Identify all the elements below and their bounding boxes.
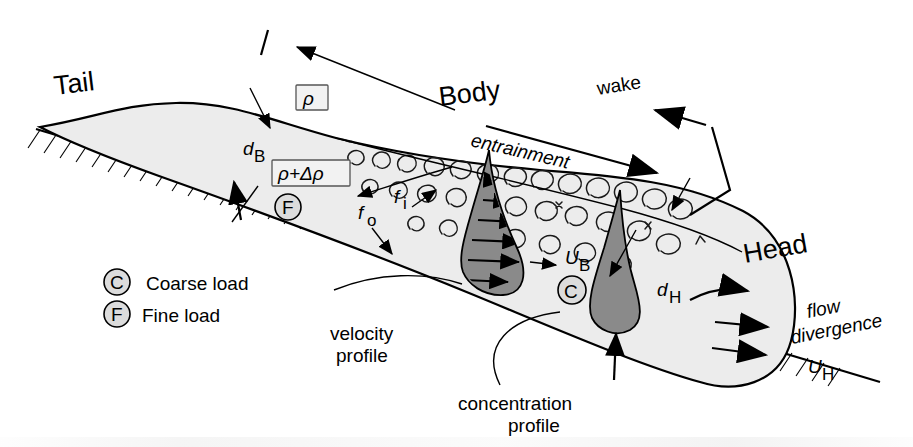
legend-item-fine: F Fine load — [104, 301, 220, 327]
wake-label: wake — [594, 71, 642, 99]
velocity-body-subscript: B — [579, 256, 590, 275]
legend-fine-label: Fine load — [142, 305, 220, 326]
depth-head-subscript: H — [669, 288, 681, 307]
legend-item-coarse: C Coarse load — [104, 269, 248, 295]
velocity-head-subscript: H — [822, 365, 834, 384]
flux-out-subscript: o — [367, 211, 376, 230]
concentration-profile-label-line2: profile — [508, 415, 560, 436]
flux-in-subscript: i — [403, 194, 407, 213]
density-current-symbol: ρ+Δρ — [277, 163, 324, 184]
body-extent-tick — [261, 30, 268, 55]
legend-coarse-marker: C — [110, 272, 124, 293]
depth-head-symbol: d — [657, 279, 669, 300]
velocity-head-symbol: U — [808, 356, 822, 377]
velocity-profile-label-line1: velocity — [330, 323, 394, 344]
wake-arrow-left — [655, 110, 706, 125]
density-current-box: ρ+Δρ — [272, 160, 350, 186]
density-ambient-symbol: ρ — [302, 88, 314, 109]
concentration-profile-label-line1: concentration — [458, 393, 572, 414]
coarse-load-marker-body: C — [558, 276, 586, 304]
depth-body-subscript: B — [254, 147, 265, 166]
fine-load-marker-body: F — [275, 194, 301, 220]
turbidity-current-body — [40, 103, 795, 386]
fine-load-symbol: F — [282, 197, 294, 218]
density-ambient-box: ρ — [296, 85, 328, 110]
turbidity-current-diagram: Tail Body Head wake entrainment ρ ρ+Δρ d… — [0, 0, 913, 447]
region-label-tail: Tail — [52, 66, 96, 101]
legend: C Coarse load F Fine load — [104, 269, 248, 327]
scan-artifact-strip — [0, 437, 913, 447]
legend-coarse-label: Coarse load — [146, 273, 248, 294]
velocity-profile-label-line2: profile — [336, 345, 388, 366]
figure-canvas: Tail Body Head wake entrainment ρ ρ+Δρ d… — [0, 0, 913, 447]
coarse-load-symbol: C — [564, 281, 578, 302]
velocity-body-symbol: U — [565, 247, 579, 268]
legend-fine-marker: F — [111, 304, 123, 325]
head-velocity-label: U H — [808, 356, 834, 384]
